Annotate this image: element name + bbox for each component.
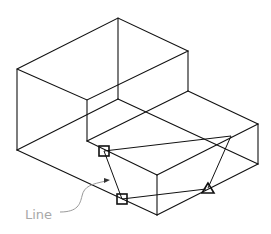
line-label: Line xyxy=(25,207,52,222)
leader-line xyxy=(60,181,106,212)
leader-arrowhead-icon xyxy=(104,178,110,183)
isometric-diagram: Line xyxy=(0,0,271,234)
block-edges xyxy=(17,18,258,215)
line-annotation: Line xyxy=(25,178,110,222)
